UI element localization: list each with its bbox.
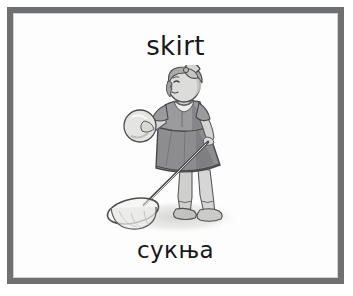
back-leg [178, 169, 192, 213]
card-inner-surface: skirt [13, 13, 338, 278]
english-word-label: skirt [13, 31, 338, 61]
front-shoe [197, 209, 222, 222]
back-shoe [173, 208, 196, 219]
serbian-word-label: сукња [13, 236, 338, 264]
hair-bow-knot [183, 67, 188, 72]
flashcard: skirt [0, 0, 353, 296]
right-sleeve [196, 103, 210, 121]
girl-wearing-skirt-illustration [86, 65, 266, 243]
card-frame: skirt [7, 7, 344, 284]
